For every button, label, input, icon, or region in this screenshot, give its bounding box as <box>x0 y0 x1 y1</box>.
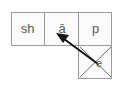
grapheme-label-1: sh <box>11 22 44 35</box>
grapheme-label-3: p <box>79 22 112 35</box>
silent-e-label: e <box>90 58 108 69</box>
phoneme-grapheme-diagram: sh ā p e <box>0 0 130 90</box>
grapheme-label-2: ā <box>45 22 79 35</box>
diagram-canvas <box>0 0 130 90</box>
